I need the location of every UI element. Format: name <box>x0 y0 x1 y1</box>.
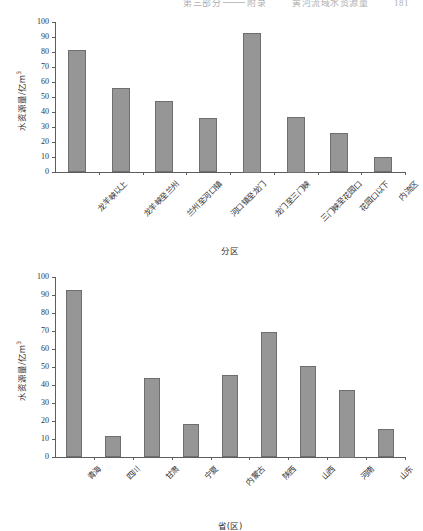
bar <box>330 133 348 172</box>
figure-regions: 0102030405060708090100水资源量/亿m3龙羊峡以上龙羊峡至兰… <box>0 10 423 255</box>
x-tick-label: 龙羊峡以上 <box>94 178 129 213</box>
bar <box>300 366 316 457</box>
bar <box>261 332 277 457</box>
x-tick-label: 河南 <box>358 463 377 482</box>
y-tick-label: 60 <box>29 78 49 86</box>
y-tick-label: 10 <box>29 435 49 443</box>
x-tick-mark <box>361 172 362 175</box>
x-axis-title: 省(区) <box>55 519 405 531</box>
running-head-page-number: 181 <box>394 0 409 8</box>
x-tick-mark <box>172 457 173 460</box>
x-tick-mark <box>211 457 212 460</box>
y-tick-mark <box>52 331 55 332</box>
y-tick-label: 90 <box>29 291 49 299</box>
x-tick-label: 四川 <box>124 463 143 482</box>
x-tick-label: 陕西 <box>280 463 299 482</box>
y-tick-mark <box>52 157 55 158</box>
bar <box>374 157 392 172</box>
y-axis-line <box>55 22 56 172</box>
running-head-chapter-word: 附录 <box>247 0 266 8</box>
x-tick-mark <box>366 457 367 460</box>
y-tick-label: 60 <box>29 345 49 353</box>
x-tick-mark <box>405 457 406 460</box>
running-head: 第三部分附录黄河流域水资源量181 <box>183 0 423 8</box>
y-tick-mark <box>52 37 55 38</box>
y-tick-mark <box>52 277 55 278</box>
x-tick-mark <box>94 457 95 460</box>
y-tick-label: 50 <box>29 363 49 371</box>
y-tick-mark <box>52 313 55 314</box>
x-tick-label: 宁夏 <box>202 463 221 482</box>
y-tick-mark <box>52 439 55 440</box>
y-tick-label: 90 <box>29 33 49 41</box>
x-tick-label: 龙门至三门峡 <box>272 178 312 218</box>
x-tick-mark <box>133 457 134 460</box>
y-tick-mark <box>52 82 55 83</box>
y-tick-mark <box>52 457 55 458</box>
x-tick-label: 甘肃 <box>163 463 182 482</box>
y-tick-label: 80 <box>29 309 49 317</box>
y-tick-mark <box>52 97 55 98</box>
x-tick-label: 山东 <box>397 463 416 482</box>
y-tick-label: 70 <box>29 327 49 335</box>
x-tick-mark <box>249 457 250 460</box>
x-tick-label: 三门峡至花园口 <box>318 178 364 224</box>
y-tick-label: 30 <box>29 123 49 131</box>
x-tick-mark <box>327 457 328 460</box>
x-tick-label: 内流区 <box>396 178 420 202</box>
bar <box>66 290 82 457</box>
x-tick-mark <box>143 172 144 175</box>
bar <box>287 117 305 173</box>
y-tick-mark <box>52 367 55 368</box>
y-tick-mark <box>52 142 55 143</box>
y-tick-label: 70 <box>29 63 49 71</box>
y-tick-mark <box>52 403 55 404</box>
y-tick-label: 40 <box>29 381 49 389</box>
x-tick-label: 内蒙古 <box>243 463 267 487</box>
y-tick-label: 10 <box>29 153 49 161</box>
x-tick-label: 山西 <box>319 463 338 482</box>
bar <box>199 118 217 172</box>
x-tick-mark <box>99 172 100 175</box>
y-tick-label: 40 <box>29 108 49 116</box>
running-head-title: 黄河流域水资源量 <box>292 0 368 8</box>
y-tick-mark <box>52 172 55 173</box>
bar <box>339 390 355 458</box>
bar <box>155 101 173 172</box>
y-tick-label: 80 <box>29 48 49 56</box>
x-tick-mark <box>186 172 187 175</box>
bar <box>222 375 238 457</box>
bar <box>112 88 130 172</box>
y-tick-mark <box>52 349 55 350</box>
y-tick-label: 0 <box>29 168 49 176</box>
y-tick-label: 50 <box>29 93 49 101</box>
y-tick-mark <box>52 127 55 128</box>
y-tick-mark <box>52 112 55 113</box>
x-tick-label: 龙羊峡至兰州 <box>141 178 181 218</box>
running-head-chapter: 第三部分 <box>183 0 221 8</box>
x-tick-label: 河口镇至龙门 <box>228 178 268 218</box>
y-tick-label: 100 <box>29 18 49 26</box>
running-head-separator <box>223 2 245 3</box>
bar <box>378 429 394 457</box>
y-tick-label: 100 <box>29 273 49 281</box>
y-tick-label: 30 <box>29 399 49 407</box>
bar <box>105 436 121 457</box>
x-tick-label: 青海 <box>85 463 104 482</box>
y-tick-mark <box>52 385 55 386</box>
y-axis-title: 水资源量/亿m3 <box>15 71 27 131</box>
x-axis-title: 分区 <box>55 244 405 256</box>
y-tick-mark <box>52 52 55 53</box>
y-tick-mark <box>52 67 55 68</box>
y-tick-mark <box>52 295 55 296</box>
x-tick-mark <box>405 172 406 175</box>
x-tick-mark <box>318 172 319 175</box>
y-tick-label: 0 <box>29 453 49 461</box>
bar <box>243 33 261 173</box>
x-tick-label: 兰州至河口镇 <box>184 178 224 218</box>
bar <box>68 50 86 172</box>
y-tick-label: 20 <box>29 417 49 425</box>
y-axis-title: 水资源量/亿m3 <box>15 341 27 401</box>
y-axis-line <box>55 277 56 457</box>
bar <box>183 424 199 457</box>
